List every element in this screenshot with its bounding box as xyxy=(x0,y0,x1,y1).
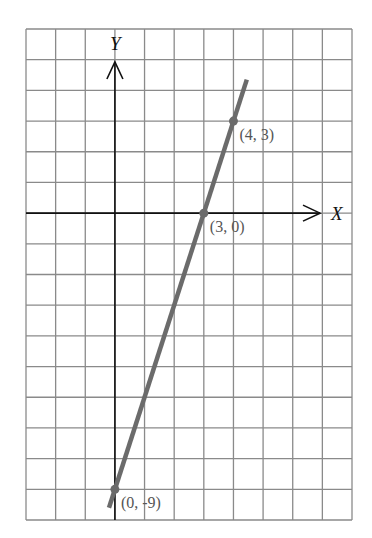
data-point xyxy=(229,117,238,126)
point-label: (3, 0) xyxy=(210,218,245,236)
x-axis-label: X xyxy=(330,203,344,224)
y-axis-label: Y xyxy=(110,33,123,54)
data-line xyxy=(109,80,247,508)
coordinate-plane: X Y (0, -9)(3, 0)(4, 3) xyxy=(0,0,372,538)
point-label: (0, -9) xyxy=(121,494,161,512)
data-point xyxy=(110,485,119,494)
data-point xyxy=(199,209,208,218)
grid-lines xyxy=(26,29,352,520)
plotted-line-group: (0, -9)(3, 0)(4, 3) xyxy=(109,80,274,513)
point-label: (4, 3) xyxy=(239,126,274,144)
